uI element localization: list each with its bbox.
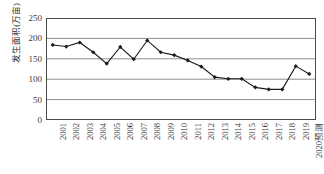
x-tick-label-2007: 2007 [138,122,150,174]
x-tick-label-2016: 2016 [259,122,271,174]
x-tick-label-2005: 2005 [111,122,123,174]
x-tick-label-2010: 2010 [178,122,190,174]
y-tick-100: 100 [16,75,42,84]
x-axis-tick-labels: 2001200220032004200520062007200820092010… [46,122,316,174]
x-tick-label-2012: 2012 [205,122,217,174]
x-tick-label-2006: 2006 [124,122,136,174]
x-tick-label-2001: 2001 [57,122,69,174]
y-axis-tick-labels: 250 200 150 100 50 0 [16,0,42,174]
data-point-2010 [172,53,176,57]
line-chart: 发生面积(万亩) 250 200 150 100 50 0 2001200220… [0,0,324,174]
series-canvas [46,18,316,120]
y-tick-200: 200 [16,34,42,43]
x-tick-label-2009: 2009 [165,122,177,174]
y-tick-50: 50 [16,96,42,105]
x-tick-label-2008: 2008 [151,122,163,174]
y-tick-0: 0 [16,116,42,125]
y-tick-150: 150 [16,55,42,64]
data-point-2001 [51,43,55,47]
data-point-2014 [226,77,230,81]
x-tick-label-2014: 2014 [232,122,244,174]
data-point-2002 [64,44,68,48]
plot-border [47,19,316,120]
x-tick-label-2013: 2013 [219,122,231,174]
x-tick-label-2003: 2003 [84,122,96,174]
plot-area [46,18,316,120]
x-tick-label-2002: 2002 [70,122,82,174]
series-line [53,40,310,89]
data-point-2017 [267,87,271,91]
y-tick-250: 250 [16,14,42,23]
x-tick-label-2017: 2017 [273,122,285,174]
x-tick-label-2004: 2004 [97,122,109,174]
x-tick-label-2015: 2015 [246,122,258,174]
x-tick-label-2011: 2011 [192,122,204,174]
x-tick-label-2020预测: 2020预测 [313,122,324,174]
x-tick-label-2018: 2018 [286,122,298,174]
x-tick-label-2019: 2019 [300,122,312,174]
